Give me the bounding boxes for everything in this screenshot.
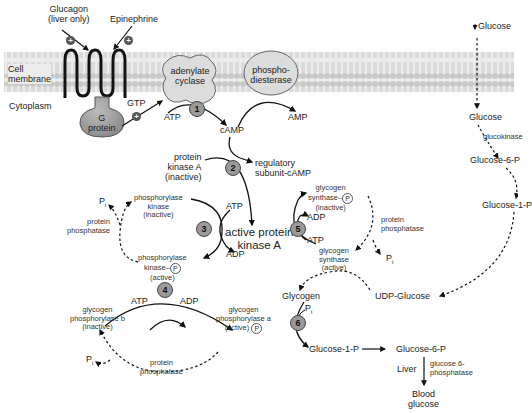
glucose-6-p-bottom-label: Glucose-6-P — [396, 344, 446, 354]
phosphate-tag: P — [251, 323, 262, 334]
step-6-badge: 6 — [290, 315, 306, 331]
udpg-to-glycogen-arrow — [300, 271, 370, 290]
gs-pi-label: Pi — [386, 253, 393, 267]
step-2-badge: 2 — [225, 160, 241, 176]
cytoplasm-label: Cytoplasm — [9, 101, 52, 111]
phk-active-label: phosphorylase kinase–P (active) — [138, 254, 187, 282]
gs-phosphatase-label: proteinphosphatase — [381, 216, 424, 233]
liver-label: Liver — [397, 364, 417, 374]
glycogen-label: Glycogen — [282, 291, 320, 301]
adenylate-cyclase-label: adenylatecyclase — [164, 66, 216, 86]
gs-adp-label: ADP — [307, 212, 326, 222]
camp-binding-arrow — [229, 137, 252, 162]
gtp-label: GTP — [127, 98, 146, 108]
step-3-badge: 3 — [196, 221, 212, 237]
pka-inactive-label: proteinkinase A(inactive) — [165, 152, 202, 182]
g-protein-label: Gprotein — [88, 113, 116, 133]
phk-pi-arrow — [109, 205, 120, 225]
glucokinase-arrow — [478, 125, 498, 158]
gp-phosphatase-label: proteinphosphatase — [140, 359, 183, 376]
step-1-badge: 1 — [189, 101, 205, 117]
glucose-intracellular-label: Glucose — [469, 112, 502, 122]
phosphodiesterase-label: phospho-diesterase — [248, 65, 294, 85]
stimulation-plus-icon: + — [66, 36, 75, 45]
glycogenolysis-pi-label: Pi — [305, 303, 312, 317]
step-5-badge: 5 — [290, 221, 306, 237]
g1p-to-udpg-arrow — [440, 212, 514, 296]
atp-label: ATP — [164, 112, 181, 122]
phk-atp-label: ATP — [226, 201, 243, 211]
gs-active-label: glycogensynthase(active) — [319, 247, 349, 273]
stimulation-plus-icon: + — [132, 112, 141, 121]
glucose-6-phosphatase-label: glucose 6-phosphatase — [430, 360, 473, 377]
camp-label: cAMP — [220, 125, 244, 135]
gs-pi-arrow — [373, 240, 380, 254]
g6p-to-g1p-arrow — [506, 168, 517, 198]
gp-pi-arrow — [96, 360, 110, 364]
gp-pi-label: Pi — [86, 354, 93, 368]
phk-adp-label: ADP — [226, 249, 245, 259]
gp-adp-label: ADP — [180, 296, 199, 306]
glucose-extracellular-label: Glucose — [478, 21, 511, 31]
gp-atp-label: ATP — [131, 296, 148, 306]
gs-inactive-label: glycogen synthase–P (inactive) — [308, 184, 353, 212]
udp-glucose-label: UDP-Glucose — [375, 291, 430, 301]
gs-atp-label: ATP — [307, 235, 324, 245]
blood-glucose-label: Bloodglucose — [408, 389, 439, 409]
phosphate-tag: P — [342, 193, 353, 204]
g1p-label: Glucose-1-P — [482, 200, 532, 210]
phosphate-tag: P — [170, 263, 181, 274]
glucose-1-p-bottom-label: Glucose-1-P — [309, 344, 359, 354]
cell-membrane-label: Cellmembrane — [8, 64, 51, 84]
step-4-badge: 4 — [157, 282, 173, 298]
gp-b-inactive-label: glycogenphosphorylase b(inactive) — [70, 306, 125, 332]
stimulation-plus-icon: + — [124, 36, 133, 45]
camp-to-amp-arrow — [238, 102, 295, 127]
gs-phosphatase-arrow — [356, 196, 373, 250]
gp-atp-adp-arrow — [150, 320, 185, 330]
amp-label: AMP — [288, 112, 308, 122]
glucokinase-label: glucokinase — [483, 133, 523, 142]
pi-label: Pi — [99, 196, 106, 210]
phk-phosphatase-label: proteinphosphatase — [67, 218, 110, 235]
epinephrine-label: Epinephrine — [110, 14, 158, 24]
phk-inactive-label: phosphorylasekinase(inactive) — [134, 194, 183, 220]
regulatory-subunit-label: regulatorysubunit-cAMP — [255, 158, 311, 178]
glucagon-label: Glucagon(liver only) — [48, 4, 90, 24]
gp-a-active-label: glycogenphosphorylase a (active) P — [216, 306, 271, 334]
g6p-label: Glucose-6-P — [470, 155, 520, 165]
